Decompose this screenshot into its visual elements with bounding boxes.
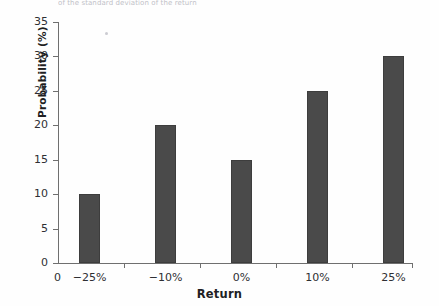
cropped-caption-text: of the standard deviation of the return bbox=[58, 0, 308, 5]
y-axis-line bbox=[58, 22, 59, 263]
x-axis-title: Return bbox=[0, 287, 439, 301]
y-axis-tick: 5 bbox=[53, 229, 58, 230]
origin-label: 0 bbox=[54, 271, 61, 284]
y-axis-tick-label: 20 bbox=[34, 118, 48, 131]
y-axis-tick: 0 bbox=[53, 263, 58, 264]
bar-minus-25 bbox=[79, 194, 100, 263]
y-axis-tick: 35 bbox=[53, 22, 58, 23]
bar-zero bbox=[231, 160, 252, 263]
x-axis-tick bbox=[352, 263, 353, 268]
x-axis-tick bbox=[200, 263, 201, 268]
bar-plus-25 bbox=[383, 56, 404, 263]
x-axis-tick bbox=[276, 263, 277, 268]
x-axis-label-zero: 0% bbox=[233, 271, 250, 284]
y-axis-tick: 15 bbox=[53, 160, 58, 161]
y-axis-tick-label: 15 bbox=[34, 153, 48, 166]
y-axis-tick-label: 0 bbox=[41, 256, 48, 269]
x-axis-label-minus-10: −10% bbox=[149, 271, 183, 284]
x-axis-label-plus-10: 10% bbox=[305, 271, 329, 284]
plot-area: 0 5 10 15 20 25 30 35 bbox=[58, 22, 413, 263]
x-axis-label-plus-25: 25% bbox=[381, 271, 405, 284]
y-axis-tick: 25 bbox=[53, 91, 58, 92]
x-axis-tick bbox=[124, 263, 125, 268]
chart-page: of the standard deviation of the return … bbox=[0, 0, 439, 306]
y-axis-title: Probability (%) bbox=[36, 26, 48, 118]
bar-minus-10 bbox=[155, 125, 176, 263]
y-axis-tick: 30 bbox=[53, 56, 58, 57]
y-axis-tick: 10 bbox=[53, 194, 58, 195]
y-axis-tick: 20 bbox=[53, 125, 58, 126]
x-axis-tick bbox=[412, 263, 413, 268]
x-axis-line bbox=[58, 263, 413, 264]
y-axis-tick-label: 10 bbox=[34, 187, 48, 200]
x-axis-label-minus-25: −25% bbox=[73, 271, 107, 284]
bar-plus-10 bbox=[307, 91, 328, 263]
y-axis-tick-label: 5 bbox=[41, 222, 48, 235]
